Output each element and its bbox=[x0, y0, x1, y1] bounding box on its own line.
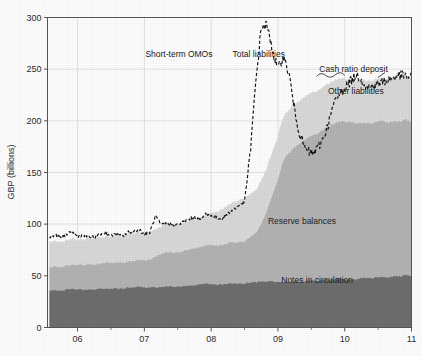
x-tick-label: 08 bbox=[206, 334, 216, 344]
x-tick-label: 06 bbox=[73, 334, 83, 344]
liabilities-area-chart: 050100150200250300 060708091011 GBP (bil… bbox=[0, 0, 422, 356]
y-tick-label: 100 bbox=[26, 219, 41, 229]
annotation-short-term-omos: Short-term OMOs bbox=[145, 49, 212, 59]
y-tick-label: 250 bbox=[26, 64, 41, 74]
chart-container: 050100150200250300 060708091011 GBP (bil… bbox=[0, 0, 422, 356]
annotation-reserve-balances: Reserve balances bbox=[268, 216, 336, 226]
y-tick-label: 300 bbox=[26, 13, 41, 23]
y-tick-label: 0 bbox=[36, 323, 41, 333]
annotation-total-liabilities: Total liabilities bbox=[233, 49, 285, 59]
y-axis-title: GBP (billions) bbox=[6, 145, 16, 200]
x-tick-label: 09 bbox=[273, 334, 283, 344]
annotation-notes-in-circulation: Notes in circulation bbox=[281, 275, 353, 285]
y-tick-label: 150 bbox=[26, 168, 41, 178]
x-tick-label: 11 bbox=[407, 334, 416, 344]
x-tick-label: 10 bbox=[340, 334, 350, 344]
annotation-other-liabilities: Other liabilities bbox=[328, 86, 384, 96]
y-tick-label: 50 bbox=[31, 271, 41, 281]
x-tick-label: 07 bbox=[139, 334, 149, 344]
y-tick-label: 200 bbox=[26, 116, 41, 126]
annotation-cash-ratio-deposit: Cash ratio deposit bbox=[319, 64, 388, 74]
